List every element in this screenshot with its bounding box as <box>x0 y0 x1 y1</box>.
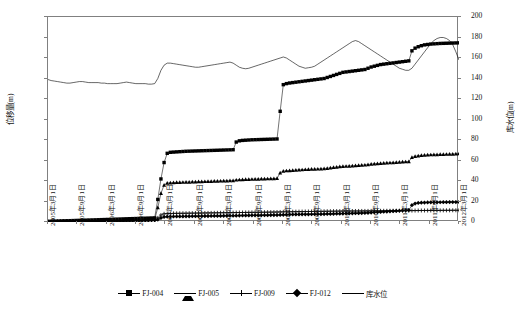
y-tick-mark-right <box>458 139 461 140</box>
data-point <box>275 137 278 140</box>
x-tick-mark <box>341 221 342 224</box>
data-point <box>297 80 300 83</box>
y-tick-right: 120 <box>471 94 482 102</box>
legend-label: FJ-005 <box>198 289 219 298</box>
x-tick-mark <box>399 221 400 224</box>
data-point <box>225 148 228 151</box>
data-point <box>379 63 382 66</box>
x-tick-mark <box>458 221 459 224</box>
y-tick-right: 160 <box>471 53 482 61</box>
data-point <box>435 42 438 45</box>
data-point <box>300 80 303 83</box>
y-tick-mark-left <box>44 57 47 58</box>
data-point <box>407 59 410 62</box>
data-point <box>357 69 360 72</box>
data-point <box>194 149 197 152</box>
data-point <box>260 138 263 141</box>
data-point <box>454 41 457 44</box>
data-point <box>291 81 294 84</box>
data-point <box>156 198 159 201</box>
legend-marker-triangle-icon <box>174 289 196 298</box>
y-tick-mark-left <box>44 201 47 202</box>
data-point <box>322 77 325 80</box>
data-point <box>159 191 163 195</box>
plot-area <box>47 16 458 221</box>
x-tick-mark <box>106 221 107 224</box>
data-point <box>385 62 388 65</box>
data-point <box>175 150 178 153</box>
data-point <box>457 208 459 212</box>
data-point <box>235 140 238 143</box>
data-point <box>257 138 260 141</box>
data-point <box>203 149 206 152</box>
data-point <box>282 83 285 86</box>
data-point <box>169 151 172 154</box>
x-tick-mark <box>194 221 195 224</box>
data-point <box>335 73 338 76</box>
data-point <box>442 42 445 45</box>
data-point <box>206 149 209 152</box>
legend-marker-plus-icon <box>230 289 252 298</box>
data-point <box>178 150 181 153</box>
legend-marker-line-icon <box>342 289 364 298</box>
data-point <box>417 45 420 48</box>
x-tick-mark <box>429 221 430 224</box>
data-point <box>376 64 379 67</box>
y-tick-right: 20 <box>471 197 479 205</box>
y-tick-mark-left <box>44 16 47 17</box>
data-point <box>191 149 194 152</box>
data-point <box>326 76 329 79</box>
data-point <box>341 71 344 74</box>
x-tick-mark <box>47 221 48 224</box>
y-tick-mark-right <box>458 180 461 181</box>
legend-marker-square-icon <box>118 289 140 298</box>
y-tick-mark-right <box>458 78 461 79</box>
data-point <box>438 42 441 45</box>
y-tick-mark-right <box>458 201 461 202</box>
data-point <box>316 78 319 81</box>
data-point <box>159 177 162 180</box>
data-point <box>238 139 241 142</box>
legend-item-FJ-012[interactable]: FJ-012 <box>286 289 331 298</box>
series-canvas <box>48 17 459 222</box>
data-point <box>338 72 341 75</box>
legend-item-FJ-004[interactable]: FJ-004 <box>118 289 163 298</box>
data-point <box>426 43 429 46</box>
data-point <box>347 70 350 73</box>
data-point <box>329 75 332 78</box>
data-point <box>304 79 307 82</box>
x-tick-mark <box>311 221 312 224</box>
data-point <box>369 65 372 68</box>
y-tick-mark-right <box>458 16 461 17</box>
y-tick-right: 0 <box>471 217 475 225</box>
data-point <box>360 68 363 71</box>
legend-label: 库水位 <box>366 288 387 299</box>
y-axis-left-title: 位移量(m) <box>4 75 15 145</box>
data-point <box>395 61 398 64</box>
y-tick-right: 180 <box>471 33 482 41</box>
data-point <box>216 149 219 152</box>
data-point <box>209 149 212 152</box>
data-point <box>162 183 166 187</box>
x-tick-label: 2012年3月1日 <box>461 184 468 226</box>
legend-item-FJ-005[interactable]: FJ-005 <box>174 289 219 298</box>
legend-item-库水位[interactable]: 库水位 <box>342 288 387 299</box>
data-point <box>445 42 448 45</box>
chart-legend: FJ-004FJ-005FJ-009FJ-012库水位 <box>47 286 458 300</box>
data-point <box>332 74 335 77</box>
data-point <box>231 148 234 151</box>
data-point <box>247 138 250 141</box>
x-tick-mark <box>164 221 165 224</box>
data-point <box>172 150 175 153</box>
data-point <box>275 176 279 180</box>
y-tick-mark-right <box>458 119 461 120</box>
data-point <box>423 43 426 46</box>
legend-item-FJ-009[interactable]: FJ-009 <box>230 289 275 298</box>
data-point <box>253 138 256 141</box>
data-point <box>404 60 407 63</box>
data-point <box>263 138 266 141</box>
y-tick-mark-right <box>458 160 461 161</box>
data-point <box>373 65 376 68</box>
y-tick-right: 140 <box>471 74 482 82</box>
